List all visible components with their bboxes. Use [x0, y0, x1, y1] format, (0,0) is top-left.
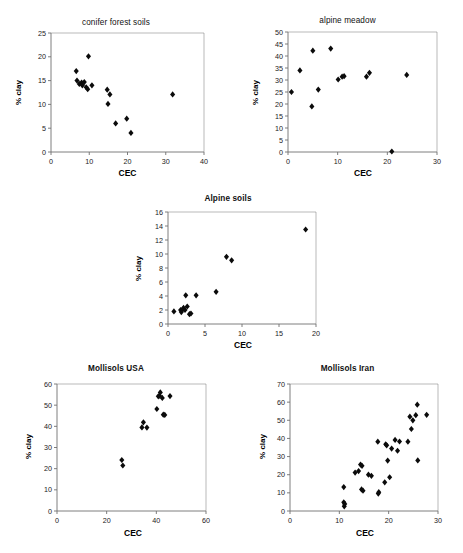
svg-text:10: 10 [277, 488, 285, 497]
data-point [415, 402, 420, 408]
data-point [229, 257, 234, 263]
svg-text:20: 20 [124, 157, 132, 166]
data-point [415, 457, 420, 463]
data-point [224, 254, 229, 260]
data-point [397, 438, 402, 444]
svg-text:0: 0 [42, 148, 46, 157]
svg-text:15: 15 [38, 76, 46, 85]
svg-text:40: 40 [200, 157, 208, 166]
data-point [124, 116, 129, 122]
data-point [395, 448, 400, 454]
svg-text:30: 30 [275, 76, 283, 85]
data-point [194, 292, 199, 298]
data-point [74, 68, 79, 74]
data-point [367, 70, 372, 76]
data-point [214, 289, 219, 295]
data-point [170, 91, 175, 97]
data-point [183, 292, 188, 298]
svg-text:0: 0 [286, 157, 290, 166]
data-point [375, 439, 380, 445]
data-point [167, 393, 172, 399]
svg-text:0: 0 [288, 516, 292, 525]
data-point [382, 479, 387, 485]
svg-text:40: 40 [44, 422, 52, 431]
data-point [389, 148, 394, 154]
svg-text:15: 15 [275, 112, 283, 121]
svg-text:10: 10 [275, 124, 283, 133]
svg-text:10: 10 [334, 157, 342, 166]
plot-area: 0102030405060700102030 [232, 362, 463, 553]
svg-text:0: 0 [55, 516, 59, 525]
data-point [107, 91, 112, 97]
svg-text:30: 30 [162, 157, 170, 166]
data-point [119, 457, 124, 463]
data-point [387, 474, 392, 480]
plot-area: 051015202530354045500102030 [232, 10, 463, 185]
data-point [364, 74, 369, 80]
svg-text:70: 70 [277, 380, 285, 389]
svg-text:10: 10 [85, 157, 93, 166]
svg-text:30: 30 [434, 516, 442, 525]
svg-text:60: 60 [44, 380, 52, 389]
svg-text:25: 25 [275, 88, 283, 97]
svg-text:25: 25 [38, 29, 46, 38]
svg-text:10: 10 [38, 100, 46, 109]
data-point [405, 439, 410, 445]
data-point [139, 424, 144, 430]
data-point [144, 425, 149, 431]
data-point [310, 48, 315, 54]
chart-panel-mollisols-usa: Mollisols USA % clay CEC 010203040506002… [0, 362, 232, 553]
data-point [393, 437, 398, 443]
svg-text:20: 20 [277, 470, 285, 479]
data-point [171, 308, 176, 314]
data-point [128, 130, 133, 136]
svg-text:16: 16 [155, 208, 163, 217]
chart-panel-alpine-soils: Alpine soils % clay CEC 0246810121416051… [108, 192, 348, 357]
data-point [105, 87, 110, 93]
svg-text:20: 20 [38, 52, 46, 61]
svg-text:40: 40 [277, 434, 285, 443]
svg-text:30: 30 [433, 157, 441, 166]
svg-text:0: 0 [166, 329, 170, 338]
svg-text:35: 35 [275, 64, 283, 73]
svg-text:10: 10 [335, 516, 343, 525]
data-point [113, 120, 118, 126]
svg-text:0: 0 [48, 507, 52, 516]
svg-text:0: 0 [159, 320, 163, 329]
svg-text:10: 10 [155, 250, 163, 259]
data-point [141, 419, 146, 425]
data-point [316, 87, 321, 93]
svg-text:10: 10 [44, 485, 52, 494]
svg-text:5: 5 [42, 124, 46, 133]
svg-text:30: 30 [44, 443, 52, 452]
svg-text:14: 14 [155, 222, 163, 231]
chart-panel-mollisols-iran: Mollisols Iran % clay CEC 01020304050607… [232, 362, 463, 553]
data-point [154, 406, 159, 412]
svg-text:40: 40 [275, 52, 283, 61]
svg-text:8: 8 [159, 264, 163, 273]
svg-text:12: 12 [155, 236, 163, 245]
data-point [303, 226, 308, 232]
svg-text:20: 20 [44, 464, 52, 473]
data-point [86, 53, 91, 59]
data-point [404, 72, 409, 78]
svg-text:20: 20 [103, 516, 111, 525]
data-point [413, 412, 418, 418]
plot-area: 0510152025010203040 [0, 10, 232, 185]
svg-text:2: 2 [159, 306, 163, 315]
svg-text:60: 60 [277, 398, 285, 407]
svg-text:50: 50 [44, 401, 52, 410]
svg-text:10: 10 [238, 329, 246, 338]
data-point [328, 45, 333, 51]
svg-text:0: 0 [49, 157, 53, 166]
data-point [385, 457, 390, 463]
svg-text:15: 15 [275, 329, 283, 338]
svg-text:60: 60 [202, 516, 210, 525]
svg-text:0: 0 [281, 507, 285, 516]
data-point [309, 103, 314, 109]
data-point [424, 412, 429, 418]
svg-text:30: 30 [277, 452, 285, 461]
svg-text:20: 20 [312, 329, 320, 338]
data-point [341, 484, 346, 490]
svg-text:20: 20 [383, 157, 391, 166]
